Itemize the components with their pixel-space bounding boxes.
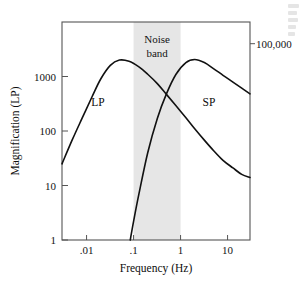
secondary-axis-tick-label: 100,000: [256, 38, 292, 50]
y-tick-label: 1: [51, 234, 57, 246]
y-tick-label: 1000: [34, 71, 57, 83]
figure-panel: .01.1110 1101001000 LP SP Noise band 100…: [0, 0, 302, 289]
lp-curve-label: LP: [91, 96, 104, 108]
x-tick-label: 1: [178, 244, 184, 256]
y-tick-label: 10: [45, 180, 57, 192]
noise-band-label-line2: band: [146, 47, 168, 59]
x-tick-label: 10: [222, 244, 234, 256]
x-tick-label: .01: [80, 244, 94, 256]
x-tick-label: .1: [129, 244, 137, 256]
noise-band-label-line1: Noise: [144, 33, 170, 45]
x-axis-title: Frequency (Hz): [120, 262, 193, 275]
y-tick-label: 100: [40, 125, 57, 137]
sp-curve-label: SP: [203, 96, 216, 108]
magnification-frequency-chart: .01.1110 1101001000 LP SP Noise band 100…: [0, 0, 302, 289]
y-axis-title: Magnification (LP): [9, 86, 22, 175]
